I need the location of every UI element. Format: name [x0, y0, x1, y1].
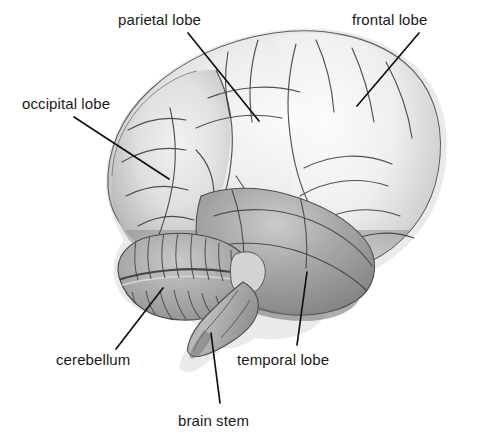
label-cerebellum: cerebellum	[56, 352, 130, 367]
label-temporal-lobe: temporal lobe	[237, 352, 329, 367]
label-brain-stem: brain stem	[178, 413, 249, 428]
brain-illustration	[0, 0, 492, 442]
label-frontal-lobe: frontal lobe	[352, 12, 427, 27]
brain-anatomy-figure: parietal lobe frontal lobe occipital lob…	[0, 0, 492, 442]
label-parietal-lobe: parietal lobe	[118, 12, 201, 27]
label-occipital-lobe: occipital lobe	[22, 96, 110, 111]
